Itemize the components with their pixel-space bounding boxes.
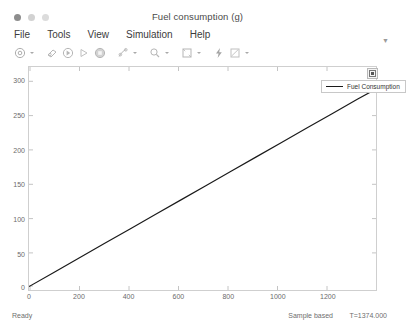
configuration-properties-icon[interactable] [45,46,59,60]
toolbar-separator-5 [205,53,212,54]
menu-file[interactable]: File [14,29,30,40]
stop-icon[interactable] [93,46,107,60]
x-axis-tick-labels: 0 200 400 600 800 1000 1200 [28,293,377,305]
toolbar-separator-2 [109,53,116,54]
signal-selection-icon[interactable] [228,46,242,60]
title-bar: Fuel consumption (g) [0,0,395,24]
x-tick-label: 800 [222,293,234,300]
menu-view[interactable]: View [87,29,109,40]
chart-plot-area [29,67,376,290]
y-tick-label: 300 [13,77,25,84]
y-tick-label: 50 [17,250,25,257]
chart-axes[interactable]: Fuel Consumption [28,66,377,291]
y-axis-tick-labels: 300 250 200 150 100 50 0 [5,66,25,291]
plot-panel: 300 250 200 150 100 50 0 [5,62,390,304]
data-cursors-dropdown-chevron-down-icon[interactable] [132,46,138,60]
x-tick-label: 200 [73,293,85,300]
y-tick-label: 100 [13,216,25,223]
chart-legend[interactable]: Fuel Consumption [321,80,406,93]
autoscale-dropdown-chevron-down-icon[interactable] [196,46,202,60]
run-back-to-start-icon[interactable] [61,46,75,60]
page-title: Fuel consumption (g) [0,11,395,22]
data-cursors-icon[interactable] [116,46,130,60]
toolbar-separator [38,53,45,54]
signal-selection-dropdown-chevron-down-icon[interactable] [244,46,250,60]
y-tick-label: 200 [13,146,25,153]
zoom-icon[interactable] [148,46,162,60]
menu-help[interactable]: Help [190,29,211,40]
legend-swatch-fuel-consumption [326,86,343,87]
axes-toolbar-button[interactable] [367,68,378,79]
legend-label-fuel-consumption: Fuel Consumption [347,83,400,90]
x-tick-label: 400 [123,293,135,300]
print-icon[interactable] [13,46,27,60]
x-tick-label: 0 [27,293,31,300]
x-tick-label: 600 [173,293,185,300]
status-bar: Ready Sample based T=1374.000 [0,308,395,328]
print-dropdown-chevron-down-icon[interactable] [29,46,35,60]
toolbar [0,44,395,62]
status-mode-label: Sample based [288,312,333,319]
y-tick-label: 150 [13,181,25,188]
y-tick-label: 0 [21,284,25,291]
status-ready-label: Ready [12,312,32,319]
x-tick-label: 1000 [270,293,286,300]
y-tick-label: 250 [13,112,25,119]
menu-tools[interactable]: Tools [47,29,70,40]
zoom-dropdown-chevron-down-icon[interactable] [164,46,170,60]
status-time-label: T=1374.000 [349,312,387,319]
chart-line-fuel-consumption [29,89,376,287]
menu-bar: File Tools View Simulation Help [0,26,395,43]
toolbar-separator-4 [173,53,180,54]
autoscale-icon[interactable] [180,46,194,60]
toolbar-separator-3 [141,53,148,54]
menu-simulation[interactable]: Simulation [126,29,173,40]
highlight-signal-icon[interactable] [212,46,226,60]
x-tick-label: 1200 [320,293,336,300]
step-forward-icon[interactable] [77,46,91,60]
